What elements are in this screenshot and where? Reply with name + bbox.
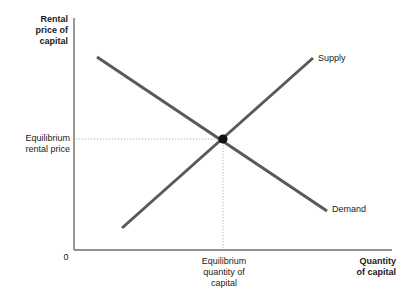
demand-curve [97,57,327,211]
equilibrium-quantity-label: Equilibrium quantity of capital [180,256,268,289]
supply-demand-chart: Rental price of capital Equilibrium rent… [0,0,401,301]
y-axis-title: Rental price of capital [2,14,68,47]
equilibrium-price-label: Equilibrium rental price [0,133,70,155]
x-axis-title: Quantity of capital [320,256,396,278]
equilibrium-point-marker [218,134,227,143]
demand-curve-label: Demand [332,204,366,215]
supply-curve [122,58,313,228]
origin-label: 0 [60,252,72,263]
supply-curve-label: Supply [318,53,346,64]
